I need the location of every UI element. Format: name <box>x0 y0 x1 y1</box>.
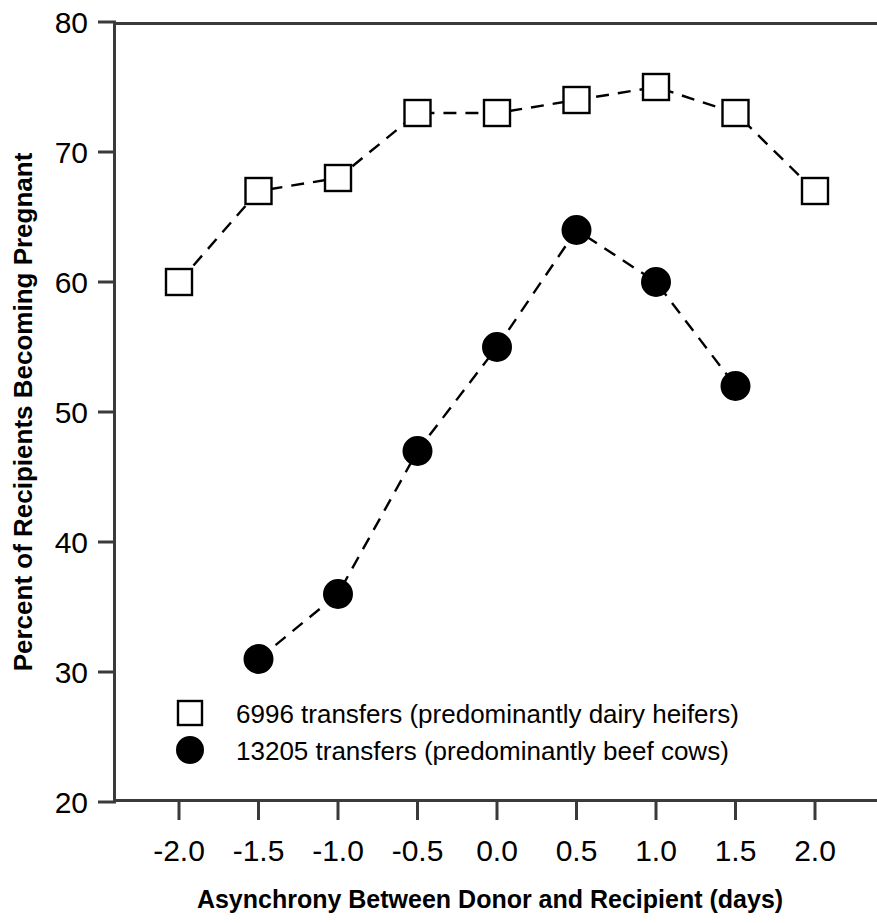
series-marker-circle <box>245 645 273 673</box>
series-marker-circle <box>563 216 591 244</box>
series-marker-square <box>484 100 510 126</box>
y-tick-label: 50 <box>55 396 88 429</box>
chart-canvas: 20304050607080 -2.0-1.5-1.0-0.50.00.51.0… <box>0 0 877 923</box>
series-marker-square <box>723 100 749 126</box>
series-marker-square <box>325 165 351 191</box>
x-tick-label: 0.5 <box>556 834 598 867</box>
chart-legend: 6996 transfers (predominantly dairy heif… <box>177 699 739 766</box>
series-marker-square <box>802 178 828 204</box>
legend-item-label: 13205 transfers (predominantly beef cows… <box>236 736 729 766</box>
x-tick-label: 1.0 <box>635 834 677 867</box>
x-tick-label: -1.5 <box>233 834 285 867</box>
legend-item: 6996 transfers (predominantly dairy heif… <box>178 699 739 729</box>
y-tick-label: 60 <box>55 266 88 299</box>
chart-figure: 20304050607080 -2.0-1.5-1.0-0.50.00.51.0… <box>0 0 877 923</box>
series-marker-circle <box>404 437 432 465</box>
x-tick-label: 1.5 <box>715 834 757 867</box>
legend-item: 13205 transfers (predominantly beef cows… <box>177 736 729 766</box>
y-tick-label: 80 <box>55 6 88 39</box>
data-series <box>245 216 750 673</box>
data-series-layer <box>166 74 828 673</box>
x-tick-label: -2.0 <box>153 834 205 867</box>
x-tick-label: 0.0 <box>476 834 518 867</box>
series-marker-circle <box>483 333 511 361</box>
y-tick-label: 70 <box>55 136 88 169</box>
x-axis-title: Asynchrony Between Donor and Recipient (… <box>197 885 783 913</box>
series-marker-square <box>643 74 669 100</box>
series-marker-circle <box>642 268 670 296</box>
legend-marker-circle <box>177 737 203 763</box>
y-axis-ticks: 20304050607080 <box>55 6 116 819</box>
series-marker-square <box>246 178 272 204</box>
x-tick-label: -1.0 <box>312 834 364 867</box>
series-marker-circle <box>722 372 750 400</box>
x-tick-label: 2.0 <box>794 834 836 867</box>
y-axis-title: Percent of Recipients Becoming Pregnant <box>8 152 38 671</box>
y-tick-label: 20 <box>55 786 88 819</box>
x-axis-ticks: -2.0-1.5-1.0-0.50.00.51.01.52.0 <box>153 800 836 867</box>
series-marker-square <box>166 269 192 295</box>
legend-marker-square <box>178 701 202 725</box>
y-tick-label: 30 <box>55 656 88 689</box>
data-series <box>166 74 828 295</box>
x-tick-label: -0.5 <box>392 834 444 867</box>
series-marker-square <box>564 87 590 113</box>
series-marker-square <box>405 100 431 126</box>
legend-item-label: 6996 transfers (predominantly dairy heif… <box>236 699 739 729</box>
series-marker-circle <box>324 580 352 608</box>
y-tick-label: 40 <box>55 526 88 559</box>
